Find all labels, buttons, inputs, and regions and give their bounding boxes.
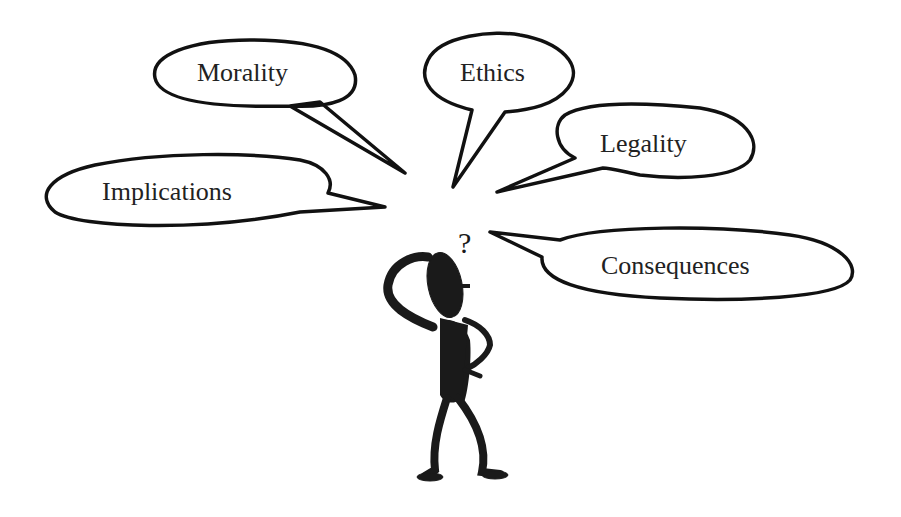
- bubble-legality: Legality: [497, 104, 754, 192]
- label-consequences: Consequences: [601, 251, 750, 280]
- label-implications: Implications: [102, 177, 232, 206]
- bubble-ethics: Ethics: [425, 33, 574, 187]
- figure-leg-right: [458, 398, 500, 474]
- figure-foot-left: [417, 473, 443, 481]
- label-morality: Morality: [197, 58, 288, 87]
- bubble-consequences: Consequences: [490, 228, 853, 299]
- speech-bubble-ethics: [425, 33, 574, 187]
- diagram-canvas: Morality Ethics Legality Implications Co…: [0, 0, 901, 517]
- figure-foot-right: [482, 471, 508, 479]
- figure-leg-left: [425, 398, 447, 476]
- figure-arm-raised: [388, 257, 433, 327]
- thinking-figure: ?: [388, 226, 508, 481]
- label-legality: Legality: [600, 129, 687, 158]
- label-ethics: Ethics: [460, 58, 525, 87]
- bubble-morality: Morality: [155, 40, 405, 173]
- question-mark-icon: ?: [458, 226, 471, 259]
- bubble-implications: Implications: [46, 155, 385, 226]
